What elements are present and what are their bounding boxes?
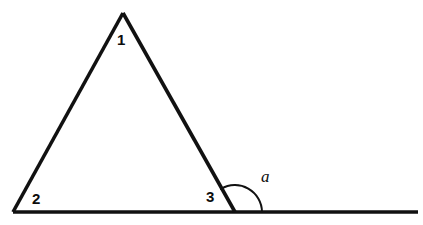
angle-label-1: 1 [117, 32, 125, 47]
exterior-angle-label-a: a [261, 168, 270, 185]
angle-label-3: 3 [206, 189, 214, 204]
triangle-left-side [13, 13, 123, 212]
triangle-right-side [123, 13, 235, 212]
geometry-diagram: 1 2 3 a [0, 0, 423, 225]
angle-label-2: 2 [32, 191, 40, 206]
